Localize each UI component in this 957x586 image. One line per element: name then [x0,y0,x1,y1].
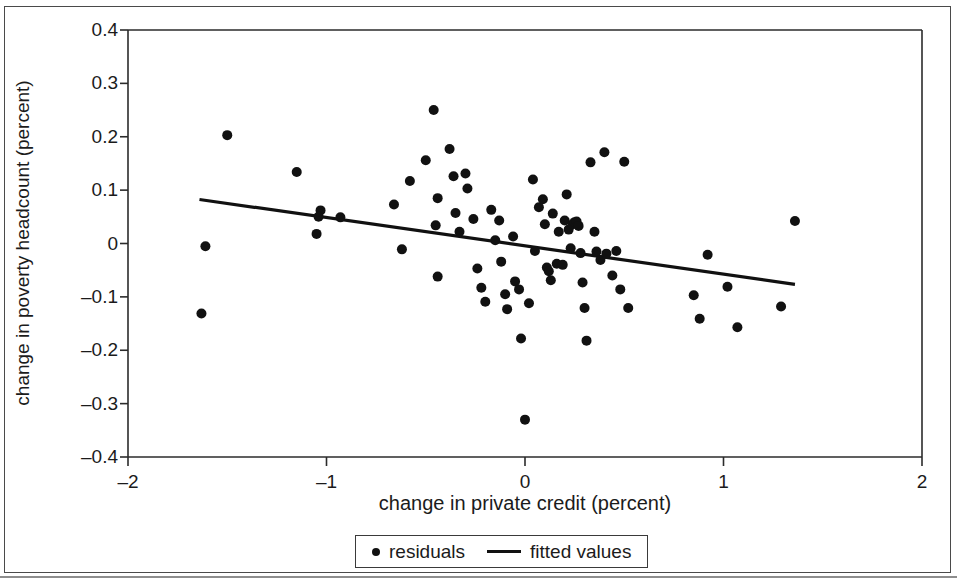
residual-point [538,194,548,204]
legend-label-fitted-values: fitted values [530,542,631,561]
residual-point [574,221,584,231]
residual-point [405,176,415,186]
y-tick-label: –0.1 [60,286,118,308]
residual-point [397,244,407,254]
legend-entry-residuals: residuals [372,542,465,561]
residual-point [433,193,443,203]
residual-point [449,171,459,181]
residual-point [589,227,599,237]
residual-point [196,308,206,318]
residual-point [528,174,538,184]
residual-point [468,214,478,224]
dot-marker-icon [372,548,380,556]
residual-point [546,275,556,285]
residual-point [722,282,732,292]
y-tick-label: –0.2 [60,339,118,361]
residual-point [476,283,486,293]
residual-point [582,336,592,346]
residual-point [524,298,534,308]
x-tick-label: –2 [117,471,138,493]
residual-point [619,157,629,167]
residual-point [578,277,588,287]
figure-container: –0.4–0.3–0.2–0.100.10.20.30.4 –2–1012 ch… [0,0,957,586]
residual-point [502,304,512,314]
y-tick-label: –0.4 [60,446,118,468]
y-tick-label: 0 [60,233,118,255]
residual-point [586,157,596,167]
residual-point [451,208,461,218]
residual-point [314,212,324,222]
residual-point [548,209,558,219]
residual-points-group [196,105,800,425]
residual-point [562,189,572,199]
residual-point [554,227,564,237]
residual-point [429,105,439,115]
residual-point [222,130,232,140]
residual-point [431,220,441,230]
residual-point [732,322,742,332]
residual-point [508,232,518,242]
residual-point [530,246,540,256]
residual-point [607,271,617,281]
residual-point [703,250,713,260]
residual-point [460,169,470,179]
x-tick-label: 1 [718,471,729,493]
legend-entry-fitted-values: fitted values [487,542,631,561]
residual-point [599,147,609,157]
y-tick-label: 0.4 [60,19,118,41]
residual-point [292,167,302,177]
residual-point [695,314,705,324]
residual-point [611,246,621,256]
residual-point [520,415,530,425]
residual-point [544,266,554,276]
residual-point [335,212,345,222]
residual-point [601,249,611,259]
residual-point [514,284,524,294]
residual-point [623,303,633,313]
y-tick-label: 0.1 [60,179,118,201]
residual-point [433,272,443,282]
line-marker-icon [487,550,521,553]
x-tick-label: –1 [316,471,337,493]
residual-point [200,241,210,251]
y-axis-title: change in poverty headcount (percent) [12,80,34,405]
residual-point [389,200,399,210]
residual-point [462,184,472,194]
residual-point [494,216,504,226]
residual-point [540,219,550,229]
residual-point [480,297,490,307]
residual-point [558,260,568,270]
residual-point [490,235,500,245]
residual-point [591,247,601,257]
residual-point [790,216,800,226]
y-tick-label: 0.3 [60,72,118,94]
residual-point [454,227,464,237]
axes-group [120,30,922,466]
residual-point [689,290,699,300]
y-tick-label: –0.3 [60,393,118,415]
chart-legend: residuals fitted values [355,535,648,568]
x-axis-title: change in private credit (percent) [379,492,671,515]
residual-point [615,284,625,294]
y-tick-label: 0.2 [60,126,118,148]
residual-point [421,155,431,165]
residual-point [516,334,526,344]
residual-point [566,243,576,253]
legend-label-residuals: residuals [389,542,465,561]
residual-point [472,264,482,274]
residual-point [500,289,510,299]
residual-point [576,248,586,258]
residual-point [776,301,786,311]
residual-point [496,257,506,267]
residual-point [445,144,455,154]
residual-point [312,229,322,239]
residual-point [580,303,590,313]
residual-point [486,205,496,215]
x-tick-label: 2 [917,471,928,493]
x-tick-label: 0 [520,471,531,493]
